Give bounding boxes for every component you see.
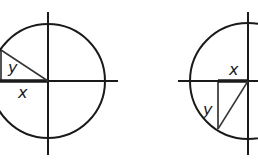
left-y-label: y [7,58,18,77]
right-y-label: y [202,100,213,119]
right-x-label: x [228,60,239,79]
unit-circle-diagrams: y x x y [0,0,258,166]
right-hypotenuse [218,81,248,129]
right-unit-circle-diagram: x y [178,12,258,155]
left-unit-circle-diagram: y x [0,12,118,155]
left-x-label: x [17,83,28,102]
